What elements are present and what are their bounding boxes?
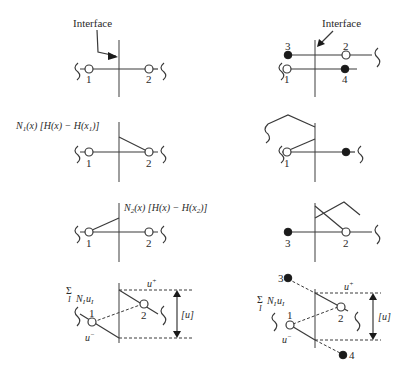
node-label: 3 [278, 272, 284, 284]
panel-left-2: N1(x) [H(x) − H(x1)] 1 2 [15, 120, 166, 182]
break-mark-icon [75, 307, 80, 326]
node-label: 2 [343, 40, 349, 52]
node-label: 1 [284, 73, 290, 85]
panel-right-4: Σ I NIuI [u] u+ u− 3 1 2 4 [257, 272, 391, 361]
break-mark-icon [375, 225, 380, 244]
u-plus-label: u+ [344, 280, 354, 292]
node-solid [341, 65, 349, 73]
sum-expression: NIuI [266, 295, 285, 308]
shape-function-peak [315, 202, 360, 218]
u-plus-label: u+ [147, 277, 157, 289]
node-open [286, 321, 294, 329]
node-open [283, 148, 291, 156]
break-mark-icon [272, 313, 277, 331]
arrow-up-icon [173, 290, 181, 297]
arrow-down-icon [173, 331, 181, 338]
break-mark-icon [161, 146, 166, 163]
node-open [145, 65, 153, 73]
node-label: 3 [285, 237, 291, 249]
node-open [88, 318, 96, 326]
jump-label: [u] [378, 311, 391, 322]
break-mark-icon [75, 226, 80, 243]
node-label: 1 [284, 157, 290, 169]
break-mark-icon [161, 306, 166, 325]
node-solid [339, 351, 347, 359]
extension-dashed-line [315, 340, 342, 354]
break-mark-icon [75, 63, 80, 80]
enriched-shape-function [90, 218, 119, 231]
u-minus-label: u− [85, 331, 95, 343]
sum-expression: NIuI [75, 293, 94, 306]
panel-left-4: Σ I NIuI [u] u+ u− 1 2 [66, 277, 194, 343]
break-mark-icon [75, 146, 80, 163]
sum-index: I [67, 295, 71, 304]
arrow-head-icon [108, 52, 118, 60]
node-label: 4 [342, 73, 348, 85]
interface-pointer-line [97, 30, 116, 56]
arrow-up-icon [369, 293, 377, 300]
sum-index: I [258, 304, 262, 313]
u-plus-line [119, 290, 158, 314]
shape-function-label: N2(x) [H(x) − H(x2)] [123, 202, 208, 215]
arrow-down-icon [369, 333, 377, 340]
node-open [283, 65, 291, 73]
node-solid [284, 228, 292, 236]
shape-function-top [268, 115, 315, 127]
break-mark-icon [161, 63, 166, 80]
node-label: 2 [146, 73, 152, 85]
interface-label: Interface [322, 17, 361, 29]
node-open [342, 51, 350, 59]
node-label: 2 [146, 157, 152, 169]
node-open [145, 148, 153, 156]
node-label: 1 [86, 157, 92, 169]
shape-function-bottom [287, 139, 315, 151]
node-label: 4 [349, 349, 355, 361]
node-open [145, 228, 153, 236]
break-mark-icon [265, 124, 270, 143]
node-label: 3 [285, 40, 291, 52]
panel-left-3: N2(x) [H(x) − H(x2)] 1 2 [75, 202, 208, 262]
node-open [337, 303, 345, 311]
break-mark-icon [358, 146, 363, 163]
node-label: 1 [89, 307, 95, 319]
panel-right-2: 1 [265, 115, 363, 182]
panel-right-3: 3 2 [284, 202, 380, 262]
panel-right-1: Interface 3 2 1 4 [279, 17, 380, 97]
node-open [85, 148, 93, 156]
node-solid [284, 51, 292, 59]
node-label: 1 [287, 309, 293, 321]
extension-dashed-line [288, 279, 315, 293]
node-solid [284, 274, 292, 282]
node-label: 1 [86, 73, 92, 85]
node-label: 2 [141, 309, 147, 321]
xfem-enrichment-diagram: Interface 1 2 N1(x) [H(x) − H(x1)] 1 2 N… [0, 0, 403, 371]
panel-left-1: Interface 1 2 [73, 17, 166, 97]
interface-pointer-line [321, 31, 333, 43]
node-solid [342, 148, 350, 156]
break-mark-icon [355, 312, 360, 331]
interpolation-dashed-line [93, 305, 140, 322]
node-open [85, 65, 93, 73]
node-label: 2 [338, 312, 344, 324]
break-mark-icon [375, 48, 380, 67]
node-open [342, 228, 350, 236]
shape-function-label: N1(x) [H(x) − H(x1)] [15, 120, 100, 133]
interface-label: Interface [73, 17, 112, 29]
node-label: 2 [146, 237, 152, 249]
node-open [140, 300, 148, 308]
u-minus-label: u− [282, 333, 292, 345]
break-mark-icon [161, 226, 166, 243]
node-open [85, 228, 93, 236]
node-label: 2 [343, 237, 349, 249]
jump-label: [u] [181, 309, 194, 320]
enriched-shape-function [119, 137, 147, 151]
node-label: 1 [86, 237, 92, 249]
